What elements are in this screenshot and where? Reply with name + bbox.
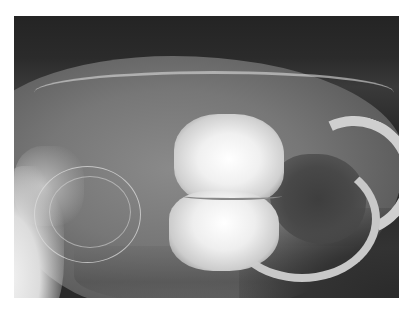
- cranial-ridge: [34, 71, 394, 114]
- neck-soft-tissue: [14, 166, 64, 298]
- occlusal-line: [182, 192, 282, 200]
- xray-image: [14, 16, 399, 298]
- lower-cheek-teeth: [169, 191, 279, 271]
